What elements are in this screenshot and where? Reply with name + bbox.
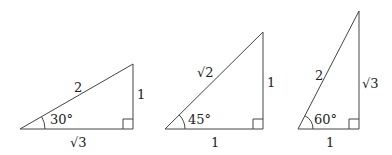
angle-arc <box>305 116 313 129</box>
angle-label: 30° <box>50 112 73 127</box>
hypotenuse-label: √2 <box>197 65 214 80</box>
hypotenuse-label: 2 <box>315 68 323 83</box>
triangle-outline <box>165 32 263 129</box>
hypotenuse-label: 2 <box>74 80 82 95</box>
triangle-60-degree: 60° 2 √3 1 <box>298 11 379 150</box>
vertical-leg-label: 1 <box>137 87 145 102</box>
angle-label: 60° <box>314 112 337 127</box>
triangles-diagram: 30° 2 1 √3 45° √2 1 1 60° 2 √3 1 <box>0 0 392 155</box>
vertical-leg-label: √3 <box>362 76 379 91</box>
angle-arc <box>42 117 45 130</box>
vertical-leg-label: 1 <box>267 75 275 90</box>
base-label: √3 <box>70 135 87 150</box>
base-label: 1 <box>211 135 219 150</box>
right-angle-marker <box>123 119 133 129</box>
base-label: 1 <box>326 135 334 150</box>
triangle-30-degree: 30° 2 1 √3 <box>20 64 145 150</box>
right-angle-marker <box>253 119 263 129</box>
triangle-outline <box>20 64 133 129</box>
triangle-45-degree: 45° √2 1 1 <box>165 32 275 150</box>
angle-label: 45° <box>188 112 211 127</box>
angle-arc <box>179 115 185 129</box>
right-angle-marker <box>349 119 359 129</box>
